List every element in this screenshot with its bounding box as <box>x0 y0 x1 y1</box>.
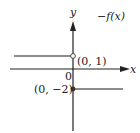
y-axis-arrow-icon <box>70 21 76 31</box>
x-axis-arrow-icon <box>120 66 130 72</box>
x-axis-label: x <box>130 64 136 75</box>
graph-figure: y −f(x) (0, 1) x 0 (0, −2) <box>0 0 140 133</box>
origin-label: 0 <box>65 71 72 82</box>
y-axis-label: y <box>70 7 76 18</box>
chart-title: −f(x) <box>97 11 125 22</box>
open-circle-point <box>71 54 76 59</box>
open-point-label: (0, 1) <box>77 56 107 67</box>
closed-point-label: (0, −2) <box>34 84 73 95</box>
